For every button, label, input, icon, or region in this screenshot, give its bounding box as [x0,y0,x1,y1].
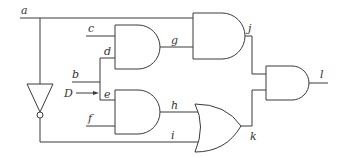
label-h: h [171,99,178,112]
label-k: k [250,130,257,143]
and-gate-2-icon [193,13,245,59]
logic-circuit-diagram: a c d b D e f g h i j k l [0,0,345,157]
label-f: f [87,112,94,125]
label-D: D [63,87,73,100]
wire-j [245,36,266,74]
or-gate-icon [195,104,241,152]
label-l: l [320,68,324,81]
label-e: e [104,88,111,101]
arrow-right-icon [93,91,99,95]
and-gate-3-icon [115,90,160,134]
label-b: b [72,68,79,81]
and-gate-1-icon [115,25,160,69]
label-j: j [245,22,252,35]
label-g: g [171,34,178,47]
label-a: a [21,4,28,17]
label-c: c [88,22,94,35]
not-gate-icon [27,84,53,112]
inverter-bubble-icon [37,112,43,118]
label-d: d [104,45,111,58]
wire-k [241,90,266,126]
and-gate-4-icon [266,66,309,100]
label-i: i [171,129,175,142]
